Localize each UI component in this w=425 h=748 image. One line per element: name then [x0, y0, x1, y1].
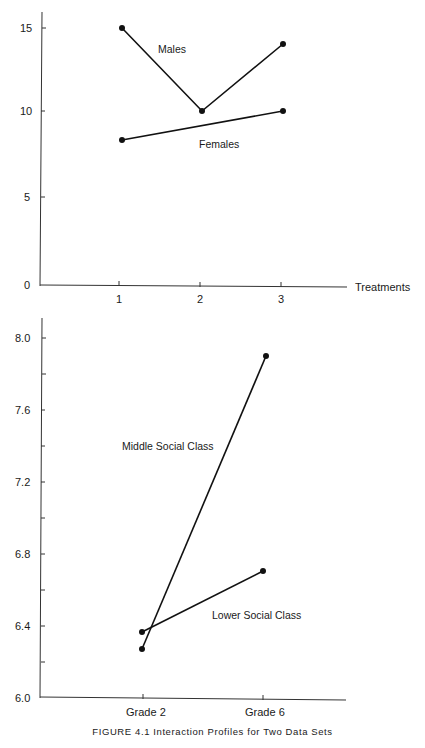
y-tick-label: 5: [24, 191, 30, 203]
y-tick-label: 7.2: [15, 476, 30, 488]
x-axis-title: Treatments: [355, 281, 411, 293]
series-label-middle-social-class: Middle Social Class: [122, 440, 214, 452]
x-tick-label: 2: [197, 293, 203, 305]
x-tick-label: 3: [278, 293, 284, 305]
y-tick-label: 15: [20, 22, 32, 34]
series-line-middle-social-class: [142, 356, 266, 649]
top-x-axis: [40, 285, 347, 287]
y-tick-label: 7.6: [15, 404, 30, 416]
data-point: [260, 568, 266, 574]
chart-social-class: 8.0 7.6 7.2 6.8 6.4 6.0 Grade 2 Grade 6 …: [15, 318, 346, 718]
series-line-lower-social-class: [142, 571, 263, 632]
y-tick-label: 6.4: [15, 620, 30, 632]
x-tick-label: Grade 2: [126, 706, 166, 718]
y-tick-label: 0: [24, 279, 30, 291]
series-label-females: Females: [199, 138, 239, 150]
bottom-x-axis: [40, 697, 346, 700]
series-label-lower-social-class: Lower Social Class: [212, 609, 301, 621]
data-point: [139, 629, 145, 635]
figure-canvas: 15 10 5 0 1 2 3 Treatments Males Females: [0, 0, 425, 748]
data-point: [280, 41, 286, 47]
series-line-males: [122, 28, 283, 111]
data-point: [119, 137, 125, 143]
y-tick-label: 8.0: [15, 332, 30, 344]
top-y-axis: [40, 12, 42, 286]
data-point: [280, 108, 286, 114]
x-tick-label: Grade 6: [245, 706, 285, 718]
y-tick-label: 6.0: [15, 692, 30, 704]
series-label-males: Males: [158, 43, 186, 55]
x-tick-label: 1: [116, 293, 122, 305]
data-point: [199, 108, 205, 114]
bottom-y-axis: [40, 318, 42, 698]
data-point: [139, 646, 145, 652]
data-point: [263, 353, 269, 359]
figure-caption: FIGURE 4.1 Interaction Profiles for Two …: [0, 726, 425, 737]
data-point: [119, 25, 125, 31]
series-line-females: [122, 111, 283, 140]
y-tick-label: 6.8: [15, 548, 30, 560]
y-tick-label: 10: [20, 105, 32, 117]
chart-treatments: 15 10 5 0 1 2 3 Treatments Males Females: [20, 12, 411, 305]
